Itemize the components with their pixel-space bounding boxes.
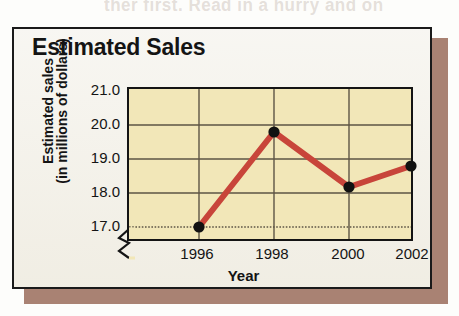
axis-break-icon [117,229,139,259]
data-point-markers [193,126,416,232]
plot-area [127,87,413,241]
data-point-1996 [193,221,204,232]
data-point-1998 [268,126,279,137]
y-tick-label: 18.0 [74,183,120,200]
vertical-gridlines [199,89,349,239]
y-tick-label: 17.0 [74,217,120,234]
scan-bleedthrough-text: ther first. Read in a hurry and on [104,0,454,19]
x-tick-label: 2002 [377,245,447,262]
x-tick-label: 1998 [237,245,307,262]
y-axis-label-line1: Estimated sales [41,58,55,164]
y-tick-label: 20.0 [74,115,120,132]
y-axis-label: Estimated sales (in millions of dollars) [35,26,75,196]
y-tick-label: 19.0 [74,149,120,166]
x-axis-label: Year [71,267,416,284]
x-tick-label: 2000 [313,245,383,262]
y-axis-label-line2: (in millions of dollars) [55,38,69,183]
y-axis-tick-labels: 21.0 20.0 19.0 18.0 17.0 [70,29,120,287]
data-point-2000 [343,181,354,192]
plot-svg [129,89,411,239]
screenshot-root: ther first. Read in a hurry and on Estim… [0,0,459,316]
chart-card: Estimated Sales Estimated sales (in mill… [12,27,432,289]
data-line [199,132,411,227]
y-tick-label: 21.0 [74,81,120,98]
x-tick-label: 1996 [162,245,232,262]
data-point-2002 [405,160,416,171]
